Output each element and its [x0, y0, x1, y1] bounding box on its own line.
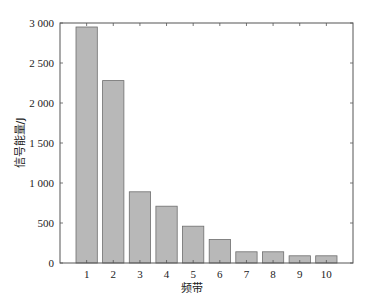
bar-1 [76, 27, 97, 263]
y-tick-label: 2 500 [29, 57, 54, 69]
x-tick-label: 3 [137, 268, 143, 280]
bar-3 [129, 192, 150, 263]
bars-group [76, 27, 337, 263]
bar-2 [103, 81, 124, 263]
x-tick-label: 2 [111, 268, 117, 280]
y-tick-label: 500 [38, 217, 55, 229]
bar-6 [209, 239, 230, 263]
x-tick-label: 10 [321, 268, 333, 280]
x-tick-label: 1 [84, 268, 90, 280]
x-axis-label: 频带 [181, 281, 203, 295]
y-axis-label: 信号能量/J [13, 118, 27, 169]
y-tick-label: 1 000 [29, 177, 54, 189]
bar-5 [183, 226, 204, 263]
bar-chart: 05001 0001 5002 0002 5003 000 1234567891… [0, 0, 369, 304]
x-tick-label: 8 [270, 268, 276, 280]
y-tick-label: 1 500 [29, 137, 54, 149]
y-tick-label: 2 000 [29, 97, 54, 109]
y-tick-label: 0 [49, 257, 55, 269]
y-tick-label: 3 000 [29, 17, 54, 29]
x-tick-label: 7 [244, 268, 250, 280]
x-tick-label: 9 [297, 268, 303, 280]
bar-4 [156, 206, 177, 263]
x-tick-label: 5 [190, 268, 196, 280]
x-tick-label: 6 [217, 268, 223, 280]
x-tick-label: 4 [164, 268, 170, 280]
